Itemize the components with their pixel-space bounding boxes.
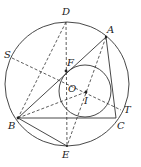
point-F (65, 70, 68, 73)
segment-AB (18, 37, 106, 118)
label-C: C (117, 121, 125, 131)
segment-BE (18, 118, 67, 146)
label-I: I (84, 96, 88, 106)
label-B: B (8, 121, 15, 131)
label-E: E (62, 150, 69, 160)
label-D: D (62, 7, 70, 17)
segment-BI (18, 92, 86, 118)
geometry-diagram: D A S F O I T B C E (0, 0, 141, 167)
label-O: O (68, 84, 76, 94)
point-B (17, 117, 20, 120)
point-E (66, 145, 68, 147)
label-F: F (67, 58, 74, 68)
label-T: T (124, 105, 131, 115)
label-A: A (107, 25, 114, 35)
point-A (105, 36, 107, 38)
segment-DB (18, 22, 66, 118)
point-I (85, 91, 88, 94)
label-S: S (4, 50, 11, 60)
